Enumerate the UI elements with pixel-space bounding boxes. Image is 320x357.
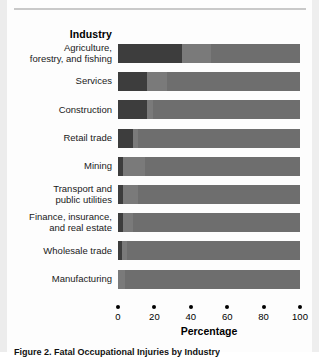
tick-label: 60 <box>207 311 247 322</box>
tick-dot <box>298 305 302 309</box>
tick-dot <box>225 305 229 309</box>
tick-label: 0 <box>98 311 138 322</box>
tick-label: 100 <box>280 311 320 322</box>
tick-label: 80 <box>244 311 284 322</box>
tick-dot <box>189 305 193 309</box>
tick-dot <box>116 305 120 309</box>
tick-dot <box>152 305 156 309</box>
x-axis-title: Percentage <box>118 325 300 337</box>
tick-label: 20 <box>134 311 174 322</box>
tick-label: 40 <box>171 311 211 322</box>
figure-caption: Figure 2. Fatal Occupational Injuries by… <box>14 347 220 357</box>
tick-dot <box>262 305 266 309</box>
